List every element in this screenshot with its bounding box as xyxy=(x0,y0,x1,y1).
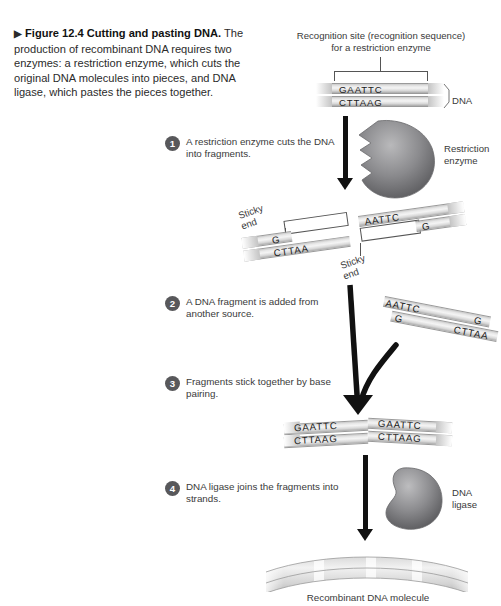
figure-number-title: Figure 12.4 Cutting and pasting DNA. xyxy=(25,27,221,39)
joined-dna-bottom-right-sequence: CTTAAG xyxy=(378,431,422,444)
joined-dna-bottom-left-sequence: CTTAAG xyxy=(294,433,338,446)
joined-dna-top-right-sequence: GAATTC xyxy=(378,418,422,431)
arrow-step4-head xyxy=(357,529,373,541)
arrow-step4-shaft xyxy=(363,455,368,531)
step-1-text: A restriction enzyme cuts the DNA into f… xyxy=(186,136,346,161)
dna-label: DNA xyxy=(452,95,472,107)
restriction-enzyme-label-line1: Restriction xyxy=(444,143,489,155)
step-3-text: Fragments stick together by base pairing… xyxy=(186,376,346,401)
dna-ligase-label-line1: DNA xyxy=(452,487,472,499)
left-frag-bot-fade xyxy=(243,249,260,262)
recognition-site-label-line1: Recognition site (recognition sequence) xyxy=(281,30,481,42)
dna-label-brace xyxy=(443,83,453,109)
recombinant-dna-shape xyxy=(262,552,474,592)
intact-bottom-right-fade xyxy=(428,96,444,107)
right-frag-top-fade xyxy=(447,201,464,214)
intact-dna-top-sequence: GAATTC xyxy=(339,84,383,95)
joined-bottom-right-fade xyxy=(436,435,453,447)
dna-ligase-label-line2: ligase xyxy=(452,499,477,511)
figure-caption: ▶ Figure 12.4 Cutting and pasting DNA. T… xyxy=(14,26,246,100)
intact-bottom-left-fade xyxy=(316,96,332,107)
recognition-site-label-line2: for a restriction enzyme xyxy=(281,42,481,54)
right-fragment-bottom-sequence: G xyxy=(421,220,431,232)
joined-dna-top-left-sequence: GAATTC xyxy=(294,420,338,433)
arrow-step1-head xyxy=(337,178,353,190)
intact-top-right-fade xyxy=(428,83,444,94)
step-4-text: DNA ligase joins the fragments into stra… xyxy=(186,481,346,506)
intact-dna-bottom-sequence: CTTAAG xyxy=(339,97,383,108)
left-frag-top-fade xyxy=(241,236,258,249)
step-4-bullet: 4 xyxy=(165,481,180,496)
restriction-enzyme-label-line2: enzyme xyxy=(444,155,478,167)
step-2-bullet: 2 xyxy=(165,296,180,311)
intact-top-left-fade xyxy=(316,83,332,94)
joined-top-right-fade xyxy=(436,422,453,434)
step-1-bullet: 1 xyxy=(165,136,180,151)
left-fragment-overhang-box xyxy=(283,212,348,235)
recognition-site-leader xyxy=(380,57,381,71)
recombinant-dna-label: Recombinant DNA molecule xyxy=(262,592,474,604)
recognition-site-bracket xyxy=(334,71,428,81)
caption-triangle-icon: ▶ xyxy=(14,28,22,39)
dna-ligase-shape xyxy=(373,466,445,532)
left-fragment-top-sequence: G xyxy=(271,234,281,246)
restriction-enzyme-shape xyxy=(352,118,438,200)
step-3-bullet: 3 xyxy=(165,376,180,391)
right-frag-bot-fade xyxy=(449,214,466,227)
